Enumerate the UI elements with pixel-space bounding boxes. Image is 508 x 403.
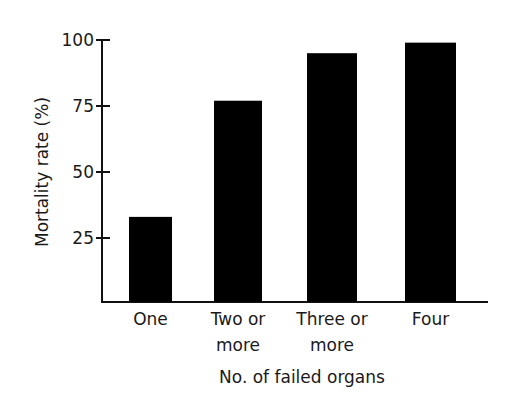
bar-one: [129, 217, 172, 302]
bar-four: [405, 43, 456, 302]
x-category-label: Two or: [210, 309, 266, 329]
bars: [129, 43, 456, 302]
y-axis-title: Mortality rate (%): [32, 97, 52, 247]
category-labels: OneTwo ormoreThree ormoreFour: [133, 309, 449, 355]
y-axis: 255075100: [62, 30, 110, 302]
x-category-label: Four: [412, 309, 449, 329]
x-axis-title: No. of failed organs: [219, 367, 385, 387]
y-tick-label: 75: [72, 96, 94, 116]
x-category-label: more: [310, 335, 354, 355]
y-tick-label: 50: [72, 162, 94, 182]
x-category-label: more: [216, 335, 260, 355]
bar-three-or-more: [307, 53, 357, 302]
y-tick-label: 25: [72, 228, 94, 248]
x-category-label: Three or: [295, 309, 368, 329]
x-category-label: One: [133, 309, 168, 329]
bar-two-or-more: [214, 101, 262, 302]
y-tick-label: 100: [62, 30, 94, 50]
bar-chart: 255075100 OneTwo ormoreThree ormoreFour …: [0, 0, 508, 403]
